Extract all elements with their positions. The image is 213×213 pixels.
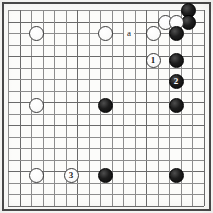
point-marker-layer: a [0,0,213,213]
point-marker-a[interactable]: a [124,28,134,38]
go-board-diagram: 123 a [0,0,213,213]
